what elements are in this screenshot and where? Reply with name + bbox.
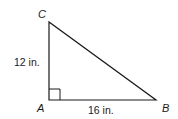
- side-label-ac: 12 in.: [14, 56, 40, 68]
- vertex-label-c: C: [38, 8, 46, 20]
- right-triangle-diagram: C A B 12 in. 16 in.: [0, 0, 178, 119]
- triangle-abc: [49, 22, 156, 100]
- side-label-ab: 16 in.: [88, 104, 114, 116]
- right-angle-marker: [49, 89, 60, 100]
- vertex-label-a: A: [36, 102, 44, 114]
- vertex-label-b: B: [162, 102, 169, 114]
